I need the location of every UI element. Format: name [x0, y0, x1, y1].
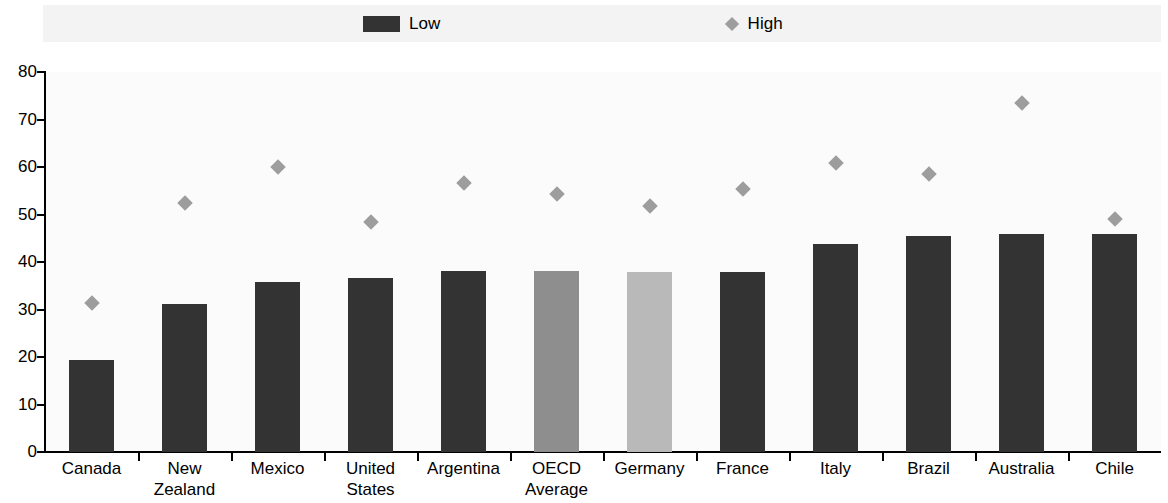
x-axis-tick-label-line: Chile — [1068, 458, 1161, 479]
chart-marker-diamond[interactable] — [363, 214, 379, 230]
y-axis-tick — [37, 71, 45, 73]
y-axis-tick-label: 20 — [0, 348, 37, 365]
y-axis-tick — [37, 309, 45, 311]
chart-bar[interactable] — [627, 272, 672, 453]
chart-marker-diamond[interactable] — [735, 182, 751, 198]
x-axis-tick-label-line: Australia — [975, 458, 1068, 479]
chart-bar[interactable] — [534, 271, 579, 452]
x-axis-tick-label-line: Italy — [789, 458, 882, 479]
filled-rect-icon — [363, 16, 400, 32]
chart-category-group — [45, 72, 138, 452]
bars-layer — [45, 72, 1161, 452]
chart-bar[interactable] — [1092, 234, 1137, 452]
x-axis-tick-label: New Zealand — [138, 458, 231, 500]
y-axis-tick-label: 70 — [0, 111, 37, 128]
chart-marker-diamond[interactable] — [456, 175, 472, 191]
chart-legend: Low High — [43, 5, 1161, 42]
x-axis-tick-label: Argentina — [417, 458, 510, 479]
chart-marker-diamond[interactable] — [1107, 211, 1123, 227]
chart-bar[interactable] — [813, 244, 858, 452]
x-axis-tick-label-line: Average — [510, 479, 603, 500]
y-axis-tick-label: 30 — [0, 301, 37, 318]
legend-label-low: Low — [409, 14, 441, 34]
chart-category-group — [417, 72, 510, 452]
legend-entry-low[interactable]: Low — [363, 14, 441, 34]
chart-category-group — [138, 72, 231, 452]
x-axis-tick-label-line: New Zealand — [138, 458, 231, 500]
y-axis-tick — [37, 166, 45, 168]
x-axis-tick-label: Mexico — [231, 458, 324, 479]
diamond-icon — [724, 16, 738, 30]
x-axis-tick-label-line: Germany — [603, 458, 696, 479]
chart-marker-diamond[interactable] — [921, 166, 937, 182]
chart-category-group — [510, 72, 603, 452]
x-axis-tick-label: Italy — [789, 458, 882, 479]
chart-category-group — [1068, 72, 1161, 452]
chart-category-group — [231, 72, 324, 452]
y-axis-tick — [37, 261, 45, 263]
legend-entry-high[interactable]: High — [725, 14, 783, 34]
legend-label-high: High — [748, 14, 783, 34]
y-axis-tick — [37, 119, 45, 121]
chart-bar[interactable] — [720, 272, 765, 452]
chart-marker-diamond[interactable] — [84, 295, 100, 311]
chart-bar[interactable] — [441, 271, 486, 452]
x-axis-tick-label-line: Mexico — [231, 458, 324, 479]
y-axis-tick-label: 40 — [0, 253, 37, 270]
chart-bar[interactable] — [162, 304, 207, 452]
x-axis-tick-label: OECDAverage — [510, 458, 603, 500]
y-axis-tick-label: 0 — [0, 443, 37, 460]
bar-chart: Low High 80706050403020100 CanadaNew Zea… — [0, 0, 1168, 503]
x-axis-tick-label: Australia — [975, 458, 1068, 479]
chart-category-group — [603, 72, 696, 452]
y-axis-tick-label: 10 — [0, 396, 37, 413]
chart-marker-diamond[interactable] — [828, 155, 844, 171]
chart-bar[interactable] — [999, 234, 1044, 453]
chart-category-group — [789, 72, 882, 452]
chart-bar[interactable] — [255, 282, 300, 452]
chart-marker-diamond[interactable] — [549, 186, 565, 202]
y-axis-tick-label: 80 — [0, 63, 37, 80]
y-axis-tick-label: 50 — [0, 206, 37, 223]
x-axis-tick-label: Germany — [603, 458, 696, 479]
y-axis-tick-label: 60 — [0, 158, 37, 175]
x-axis-tick-label-line: France — [696, 458, 789, 479]
x-axis-tick-label: Brazil — [882, 458, 975, 479]
x-axis-tick-label-line: Argentina — [417, 458, 510, 479]
chart-category-group — [882, 72, 975, 452]
chart-marker-diamond[interactable] — [270, 159, 286, 175]
x-axis-tick-label-line: Canada — [45, 458, 138, 479]
x-axis-tick-label-line: United States — [324, 458, 417, 500]
y-axis-tick — [37, 404, 45, 406]
x-axis-tick-label: Canada — [45, 458, 138, 479]
y-axis-tick — [37, 214, 45, 216]
chart-marker-diamond[interactable] — [177, 195, 193, 211]
chart-category-group — [975, 72, 1068, 452]
chart-bar[interactable] — [348, 278, 393, 452]
chart-marker-diamond[interactable] — [1014, 96, 1030, 112]
chart-bar[interactable] — [906, 236, 951, 452]
x-axis-tick-label-line: OECD — [510, 458, 603, 479]
x-axis-labels: CanadaNew ZealandMexicoUnited StatesArge… — [45, 458, 1161, 503]
chart-bar[interactable] — [69, 360, 114, 452]
x-axis-tick-label: Chile — [1068, 458, 1161, 479]
chart-category-group — [696, 72, 789, 452]
chart-category-group — [324, 72, 417, 452]
y-axis-tick — [37, 356, 45, 358]
x-axis-tick-label-line: Brazil — [882, 458, 975, 479]
x-axis-tick-label: France — [696, 458, 789, 479]
chart-marker-diamond[interactable] — [642, 199, 658, 215]
x-axis-tick-label: United States — [324, 458, 417, 500]
y-axis-tick — [37, 451, 45, 453]
